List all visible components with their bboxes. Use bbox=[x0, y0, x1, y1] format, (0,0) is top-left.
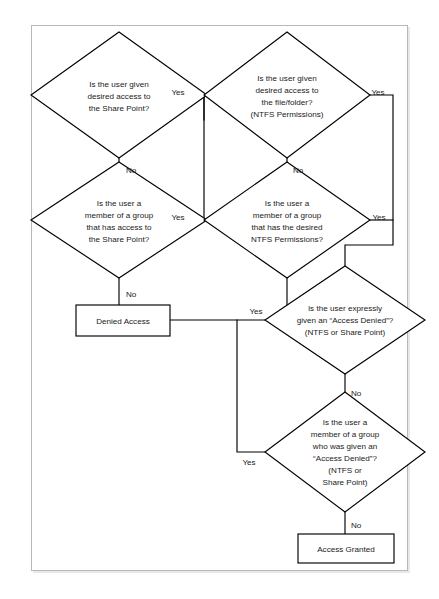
diamond-q6 bbox=[265, 392, 425, 512]
q1-line-1: Is the user given bbox=[89, 80, 148, 89]
q4-line-4: NTFS Permissions? bbox=[251, 235, 323, 244]
q4-line-2: member of a group bbox=[253, 211, 322, 220]
q2-line-3: that has access to bbox=[86, 223, 152, 232]
denied-access-label: Denied Access bbox=[96, 317, 150, 326]
decision-node-file-folder-access[interactable]: Is the user given desired access to the … bbox=[204, 32, 370, 158]
q3-line-3: the file/folder? bbox=[262, 98, 313, 107]
terminal-node-access-granted[interactable]: Access Granted bbox=[298, 534, 394, 563]
decision-node-express-access-denied[interactable]: Is the user expressly given an “Access D… bbox=[265, 266, 425, 374]
edge-label-q1-yes: Yes bbox=[171, 88, 184, 97]
q2-line-4: the Share Point? bbox=[89, 235, 150, 244]
q6-line-4: “Access Denied”? bbox=[313, 454, 377, 463]
edge-label-q2-no: No bbox=[126, 290, 137, 299]
q4-line-1: Is the user a bbox=[265, 199, 310, 208]
q1-line-2: desired access to bbox=[88, 92, 151, 101]
q5-line-2: given an “Access Denied”? bbox=[297, 316, 394, 325]
q2-line-2: member of a group bbox=[85, 211, 154, 220]
q3-line-1: Is the user given bbox=[257, 74, 316, 83]
q2-line-1: Is the user a bbox=[97, 199, 142, 208]
flowchart-canvas: Is the user given desired access to the … bbox=[0, 0, 439, 599]
access-granted-label: Access Granted bbox=[317, 545, 375, 554]
edge-label-denied-to-q5-yes: Yes bbox=[249, 307, 262, 316]
edge-label-q2-yes: Yes bbox=[171, 213, 184, 222]
q3-line-2: desired access to bbox=[256, 86, 319, 95]
diamond-q3 bbox=[204, 32, 370, 158]
q6-line-3: who was given an bbox=[312, 442, 377, 451]
flowchart-svg: Is the user given desired access to the … bbox=[0, 0, 439, 599]
edge-label-q3-no: No bbox=[293, 166, 304, 175]
edge-label-q5-no: No bbox=[351, 389, 362, 398]
q6-line-1: Is the user a bbox=[323, 418, 368, 427]
edge-label-q6-no: No bbox=[351, 521, 362, 530]
q5-line-1: Is the user expressly bbox=[308, 304, 383, 313]
edge-denied-to-q6 bbox=[237, 320, 265, 452]
q5-line-3: (NTFS or Share Point) bbox=[305, 328, 386, 337]
q6-line-2: member of a group bbox=[311, 430, 380, 439]
q6-line-5: (NTFS or bbox=[328, 466, 362, 475]
decision-node-group-access-denied[interactable]: Is the user a member of a group who was … bbox=[265, 392, 425, 512]
edge-label-q1-no: No bbox=[126, 166, 137, 175]
terminal-node-denied-access[interactable]: Denied Access bbox=[76, 305, 170, 336]
q1-line-3: the Share Point? bbox=[89, 104, 150, 113]
edge-label-denied-to-q6-yes: Yes bbox=[242, 458, 255, 467]
q4-line-3: that has the desired bbox=[251, 223, 322, 232]
edge-q3-yes bbox=[345, 95, 393, 266]
edge-label-q3-yes: Yes bbox=[371, 88, 384, 97]
q6-line-6: Share Point) bbox=[323, 478, 368, 487]
edge-label-q4-yes: Yes bbox=[372, 213, 385, 222]
q3-line-4: (NTFS Permissions) bbox=[251, 110, 324, 119]
